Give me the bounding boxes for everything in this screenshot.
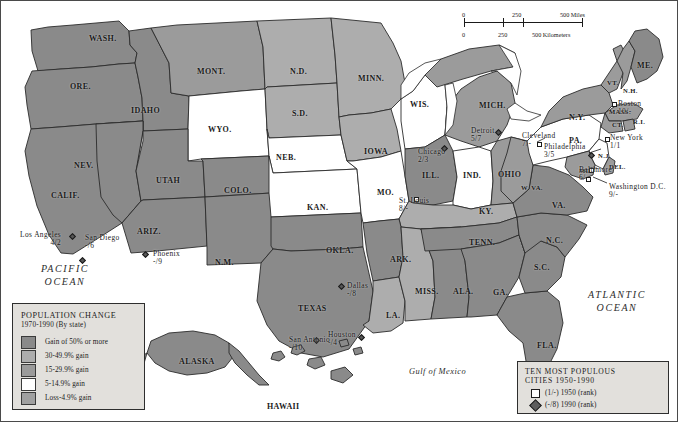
city-legend-label: (1/-) 1950 (rank) — [545, 389, 597, 397]
city-legend-title-line2: CITIES 1950-1990 — [525, 376, 661, 385]
scale-tick-3 — [582, 18, 583, 27]
scale-tick-1 — [503, 18, 504, 27]
scale-miles-500: 500 Miles — [560, 11, 585, 18]
square-1950-icon — [531, 389, 540, 398]
city-legend-rows: (1/-) 1950 (rank)(-/8) 1990 (rank) — [525, 389, 661, 410]
state-oregon — [25, 63, 143, 129]
population-legend-label: Gain of 50% or more — [45, 338, 108, 346]
scale-miles-0: 0 — [462, 11, 465, 18]
city-rank-legend: TEN MOST POPULOUS CITIES 1950-1990 (1/-)… — [517, 361, 669, 414]
scale-km-250: 250 — [498, 31, 507, 38]
state-northdakota — [257, 18, 337, 89]
population-legend-row: Loss-4.9% gain — [21, 391, 136, 405]
population-legend-label: 30-49.9% gain — [45, 352, 89, 360]
state-newmexico — [205, 193, 273, 265]
state-alaska — [147, 331, 233, 375]
city-legend-row: (-/8) 1990 (rank) — [525, 401, 661, 410]
state-minnesota — [331, 18, 405, 117]
diamond-1990-icon — [529, 399, 542, 412]
population-legend-rows: Gain of 50% or more30-49.9% gain15-29.9%… — [21, 335, 136, 405]
population-change-legend: POPULATION CHANGE 1970-1990 (By state) G… — [12, 303, 145, 410]
population-legend-swatch — [21, 378, 36, 391]
population-legend-title-line2: 1970-1990 (By state) — [21, 321, 136, 329]
population-legend-row: 15-29.9% gain — [21, 363, 136, 377]
scale-tick-0 — [464, 18, 465, 27]
scale-bar: 0 250 500 Miles 0 250 500 Kilometers — [456, 7, 606, 41]
population-legend-row: 30-49.9% gain — [21, 349, 136, 363]
state-rhodeisland — [623, 119, 635, 131]
population-legend-label: Loss-4.9% gain — [45, 394, 92, 402]
city-legend-key — [525, 401, 545, 410]
state-texas — [257, 247, 373, 357]
state-oklahoma — [271, 213, 363, 251]
city-legend-label: (-/8) 1990 (rank) — [545, 401, 597, 409]
state-southdakota — [265, 83, 341, 138]
population-legend-swatch — [21, 336, 36, 349]
scale-km-500: 500 Kilometers — [532, 31, 570, 38]
state-colorado — [201, 156, 271, 197]
population-legend-label: 5-14.9% gain — [45, 380, 85, 388]
scale-km-0: 0 — [462, 31, 465, 38]
population-change-map: .s{stroke:#2b2b2b;stroke-width:.9;stroke… — [0, 0, 678, 422]
state-maine — [629, 29, 663, 83]
scale-tick-2 — [523, 18, 524, 27]
population-legend-row: Gain of 50% or more — [21, 335, 136, 349]
city-legend-row: (1/-) 1950 (rank) — [525, 389, 661, 398]
population-legend-row: 5-14.9% gain — [21, 377, 136, 391]
population-legend-swatch — [21, 364, 36, 377]
population-legend-swatch — [21, 350, 36, 363]
lake-erie — [507, 103, 541, 121]
city-legend-key — [525, 389, 545, 398]
population-legend-label: 15-29.9% gain — [45, 366, 89, 374]
state-iowa — [339, 109, 401, 161]
city-legend-title-line1: TEN MOST POPULOUS — [525, 367, 661, 376]
scale-miles-250: 250 — [512, 11, 521, 18]
alaska-panhandle — [229, 343, 269, 385]
population-legend-title-line1: POPULATION CHANGE — [21, 311, 136, 320]
state-indiana — [453, 147, 493, 209]
population-legend-swatch — [21, 392, 36, 405]
state-wyoming — [188, 89, 269, 161]
